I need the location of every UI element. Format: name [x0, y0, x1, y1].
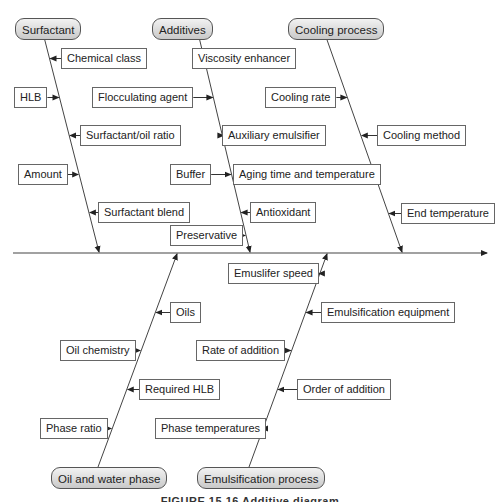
cause-hlb: HLB	[14, 87, 47, 108]
cause-buffer: Buffer	[170, 164, 211, 185]
cause-required-hlb: Required HLB	[139, 379, 220, 400]
cause-surfactant-oil-ratio: Surfactant/oil ratio	[80, 125, 181, 146]
cause-oil-chemistry: Oil chemistry	[60, 340, 136, 361]
cause-phase-ratio: Phase ratio	[40, 418, 108, 439]
cause-amount: Amount	[18, 164, 68, 185]
cause-phase-temperatures: Phase temperatures	[155, 418, 266, 439]
category-oil-and-water-phase: Oil and water phase	[51, 467, 167, 489]
cause-auxiliary-emulsifier: Auxiliary emulsifier	[222, 125, 326, 146]
cause-flocculating-agent: Flocculating agent	[92, 87, 193, 108]
category-cooling-process: Cooling process	[288, 18, 384, 40]
cause-emulsifier-speed: Emuslifer speed	[228, 263, 319, 284]
cause-rate-of-addition: Rate of addition	[196, 340, 285, 361]
cause-cooling-method: Cooling method	[377, 125, 466, 146]
cause-cooling-rate: Cooling rate	[265, 87, 336, 108]
cause-aging-time-and-temperature: Aging time and temperature	[233, 164, 381, 185]
cause-chemical-class: Chemical class	[61, 48, 147, 69]
cause-end-temperature: End temperature	[401, 203, 495, 224]
category-additives: Additives	[152, 18, 213, 40]
figure-caption: FIGURE 15.16 Additive diagram	[0, 494, 500, 502]
cause-emulsification-equipment: Emulsification equipment	[321, 302, 455, 323]
cause-surfactant-blend: Surfactant blend	[98, 202, 190, 223]
category-emulsification-process: Emulsification process	[197, 467, 325, 489]
cause-preservative: Preservative	[170, 225, 243, 246]
cause-order-of-addition: Order of addition	[297, 379, 391, 400]
cause-oils: Oils	[170, 302, 201, 323]
cause-antioxidant: Antioxidant	[250, 202, 316, 223]
category-surfactant: Surfactant	[15, 18, 81, 40]
cause-viscosity-enhancer: Viscosity enhancer	[192, 48, 296, 69]
